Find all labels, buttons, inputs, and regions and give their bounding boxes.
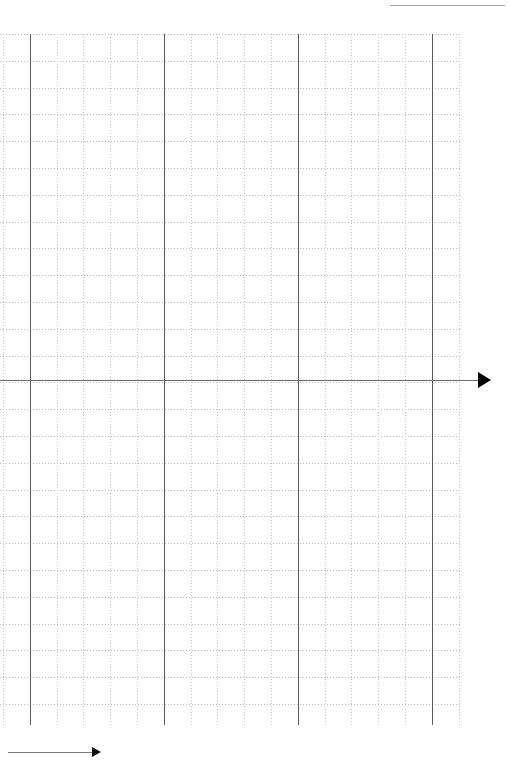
gridline-horizontal (0, 248, 462, 249)
top-right-rule (390, 5, 505, 6)
gridline-horizontal (0, 195, 462, 196)
gridline-horizontal (0, 597, 462, 598)
gridline-horizontal (0, 88, 462, 89)
gridline-horizontal (0, 382, 462, 383)
gridline-horizontal (0, 329, 462, 330)
gridline-horizontal (0, 516, 462, 517)
gridline-horizontal (0, 141, 462, 142)
gridline-horizontal (0, 114, 462, 115)
bottom-measurement-arrow-icon (92, 747, 101, 757)
gridline-horizontal (0, 463, 462, 464)
gridline-horizontal (0, 624, 462, 625)
gridline-horizontal (0, 168, 462, 169)
gridline-horizontal (0, 61, 462, 62)
gridline-horizontal (0, 543, 462, 544)
gridline-horizontal (0, 275, 462, 276)
gridline-horizontal (0, 34, 462, 35)
graph-paper-canvas (0, 0, 510, 769)
gridline-horizontal (0, 570, 462, 571)
gridline-horizontal (0, 409, 462, 410)
x-axis-arrow-icon (478, 372, 491, 388)
gridline-horizontal (0, 704, 462, 705)
gridline-horizontal (0, 222, 462, 223)
gridline-horizontal (0, 356, 462, 357)
gridline-horizontal (0, 436, 462, 437)
gridline-horizontal (0, 490, 462, 491)
gridline-horizontal (0, 650, 462, 651)
gridline-horizontal (0, 302, 462, 303)
bottom-measurement-line (8, 752, 92, 753)
gridline-horizontal (0, 677, 462, 678)
x-axis-line (0, 380, 478, 381)
